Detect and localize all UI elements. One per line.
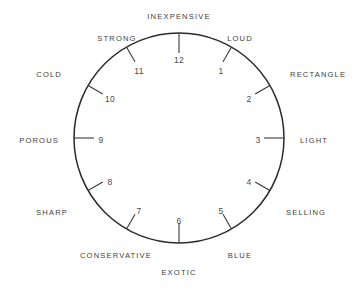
attribute-label-exotic: EXOTIC <box>161 268 196 277</box>
tick-mark-10 <box>88 86 103 95</box>
hour-number-group: 121234567891011 <box>98 55 260 226</box>
hour-number-10: 10 <box>105 94 115 104</box>
hour-number-4: 4 <box>246 177 251 187</box>
attribute-label-sharp: SHARP <box>36 208 68 217</box>
tick-mark-2 <box>255 86 270 95</box>
hour-number-11: 11 <box>134 66 143 76</box>
attribute-label-rectangle: RECTANGLE <box>290 70 346 79</box>
attribute-label-inexpensive: INEXPENSIVE <box>147 12 210 21</box>
hour-number-7: 7 <box>136 206 141 216</box>
hour-number-9: 9 <box>98 135 103 145</box>
clock-diagram: 121234567891011 INEXPENSIVELOUDRECTANGLE… <box>0 0 354 294</box>
hour-number-3: 3 <box>255 135 260 145</box>
tick-mark-7 <box>127 214 136 229</box>
clock-svg: 121234567891011 INEXPENSIVELOUDRECTANGLE… <box>0 0 354 294</box>
attribute-label-porous: POROUS <box>19 136 59 145</box>
attribute-label-strong: STRONG <box>97 34 136 43</box>
hour-number-5: 5 <box>218 206 223 216</box>
tick-mark-5 <box>223 214 232 229</box>
tick-mark-8 <box>88 182 103 191</box>
hour-number-12: 12 <box>174 55 184 65</box>
hour-number-2: 2 <box>246 94 251 104</box>
attribute-label-light: LIGHT <box>300 136 328 145</box>
attribute-label-group: INEXPENSIVELOUDRECTANGLELIGHTSELLINGBLUE… <box>19 12 346 277</box>
tick-mark-1 <box>223 47 232 62</box>
attribute-label-cold: COLD <box>36 70 62 79</box>
hour-number-8: 8 <box>107 177 112 187</box>
attribute-label-conservative: CONSERVATIVE <box>80 251 152 260</box>
tick-mark-4 <box>255 182 270 191</box>
attribute-label-loud: LOUD <box>227 34 253 43</box>
tick-mark-11 <box>127 47 136 62</box>
attribute-label-selling: SELLING <box>286 208 326 217</box>
hour-number-6: 6 <box>176 216 181 226</box>
attribute-label-blue: BLUE <box>228 251 252 260</box>
hour-number-1: 1 <box>218 66 223 76</box>
